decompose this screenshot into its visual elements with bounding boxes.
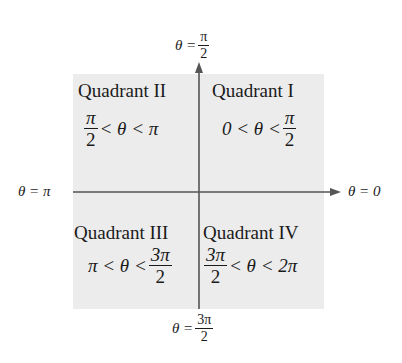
label-theta-0: θ = 0 <box>348 184 381 199</box>
quadrant-iv-title: Quadrant IV <box>203 222 299 244</box>
arrowhead-up-icon <box>195 62 203 73</box>
frac-num: 3π <box>204 245 227 266</box>
label-theta-3pi-over-2: θ = 3π2 <box>172 313 215 344</box>
frac-den: 2 <box>285 129 295 149</box>
frac-den: 2 <box>86 129 96 149</box>
frac-num: 3π <box>149 245 172 266</box>
label-theta-pi: θ = π <box>18 184 51 199</box>
range-text: π < θ < <box>88 256 147 275</box>
frac-den: 2 <box>211 266 221 286</box>
range-text: < θ < π <box>100 119 159 138</box>
quadrant-iv-range: 3π2 < θ < 2π <box>202 245 297 286</box>
quadrant-i-title: Quadrant I <box>212 80 294 102</box>
frac-num: π <box>198 30 209 46</box>
range-text: 0 < θ < <box>222 119 281 138</box>
frac-den: 2 <box>156 266 166 286</box>
range-text: < θ < 2π <box>229 256 297 275</box>
frac-den: 2 <box>201 329 208 344</box>
frac-num: 3π <box>195 313 213 329</box>
frac-num: π <box>283 108 297 129</box>
label-lhs: θ = <box>175 38 196 53</box>
quadrant-iii-title: Quadrant III <box>74 222 168 244</box>
quadrant-ii-range: π2 < θ < π <box>82 108 158 149</box>
label-theta-pi-over-2: θ = π2 <box>175 30 211 61</box>
frac-num: π <box>84 108 98 129</box>
label-text: θ = π <box>18 184 51 199</box>
label-text: θ = 0 <box>348 184 381 199</box>
quadrant-ii-title: Quadrant II <box>78 80 166 102</box>
quadrant-i-range: 0 < θ < π2 <box>222 108 298 149</box>
label-lhs: θ = <box>172 321 193 336</box>
arrowhead-right-icon <box>330 188 341 196</box>
quadrant-iii-range: π < θ < 3π2 <box>88 245 174 286</box>
frac-den: 2 <box>200 46 207 61</box>
